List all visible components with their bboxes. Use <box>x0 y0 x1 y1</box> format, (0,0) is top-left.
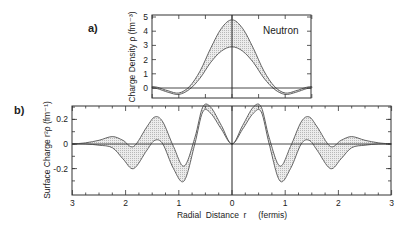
panel-a-label: a) <box>88 22 98 34</box>
panel-a-chart: a) 012345 Neutron Charge Density ρ (fm⁻³… <box>88 11 312 102</box>
charge-density-figure: a) 012345 Neutron Charge Density ρ (fm⁻³… <box>0 0 405 230</box>
panel-b-label: b) <box>14 104 25 116</box>
tick-label: 0 <box>230 198 235 208</box>
tick-label: 3 <box>143 40 148 50</box>
neutron-annotation: Neutron <box>263 25 299 36</box>
panel-a-y-axis-label: Charge Density ρ (fm⁻³) <box>127 11 137 102</box>
tick-label: 2 <box>123 198 128 208</box>
panel-b-chart: b) 0.20-0.2 3210123 Surface Charge r²ρ (… <box>14 101 394 220</box>
tick-label: 0 <box>143 83 148 93</box>
tick-label: 5 <box>143 12 148 22</box>
tick-label: 2 <box>143 55 148 65</box>
panel-b-y-axis-label: Surface Charge r²ρ (fm⁻¹) <box>42 101 52 199</box>
tick-label: 3 <box>389 198 394 208</box>
tick-label: 2 <box>336 198 341 208</box>
tick-label: -0.2 <box>53 164 68 174</box>
panel-b-ytick-labels: 0.20-0.2 <box>53 114 68 173</box>
panel-b-xtick-labels: 3210123 <box>70 198 394 208</box>
tick-label: 0.2 <box>56 114 68 124</box>
panel-a-ytick-labels: 012345 <box>143 12 148 93</box>
tick-label: 1 <box>283 198 288 208</box>
tick-label: 3 <box>70 198 75 208</box>
tick-label: 1 <box>176 198 181 208</box>
panel-b-x-axis-label: Radial Distance r (fermis) <box>177 210 287 220</box>
tick-label: 4 <box>143 26 148 36</box>
tick-label: 0 <box>63 139 68 149</box>
tick-label: 1 <box>143 69 148 79</box>
